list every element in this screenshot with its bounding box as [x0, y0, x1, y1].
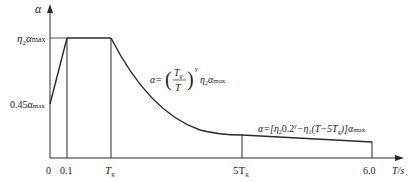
x-axis-label: T/s [392, 165, 404, 176]
linear-descent [242, 135, 372, 142]
svg-text:): ) [187, 68, 194, 91]
y-tick-045amax: 0.45αmax [10, 99, 45, 110]
x-tick-0.1: 0.1 [60, 165, 73, 176]
x-tick-5Tg: 5Tg [233, 164, 249, 178]
svg-text:α=: α= [150, 74, 162, 85]
seismic-response-spectrum-diagram: α η2αmax 0.45αmax 0 0.1 Tg 5Tg 6.0 T/s α… [0, 0, 411, 182]
x-tick-6.0: 6.0 [363, 165, 376, 176]
y-tick-eta2amax: η2αmax [17, 32, 46, 47]
svg-text:Tg: Tg [174, 67, 183, 79]
line-formula: α=[η20.2γ−η1(T−5Tg)]αmax [258, 123, 366, 135]
linear-rise [50, 38, 67, 104]
curve-formula: α= ( Tg T ) γ η2αmax [150, 65, 226, 93]
svg-text:T: T [175, 82, 182, 93]
x-tick-0: 0 [46, 165, 51, 176]
svg-text:γ: γ [195, 65, 198, 73]
svg-text:(: ( [165, 68, 172, 91]
y-axis-arrow-icon [47, 4, 53, 13]
x-axis-arrow-icon [395, 155, 404, 161]
y-axis-label: α [35, 2, 42, 16]
svg-text:η2αmax: η2αmax [200, 74, 226, 86]
x-tick-Tg: Tg [105, 164, 115, 178]
